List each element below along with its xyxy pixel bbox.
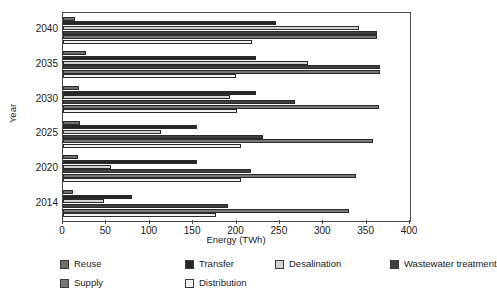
- x-tick-mark-0: [62, 220, 63, 224]
- bar-group-2040: [63, 13, 410, 48]
- bar-2035-supply: [63, 70, 380, 74]
- bar-2035-distribution: [63, 74, 236, 78]
- bar-2020-reuse: [63, 155, 78, 159]
- legend-item-reuse[interactable]: Reuse: [60, 256, 101, 272]
- bar-2025-supply: [63, 139, 373, 143]
- x-tick-mark-400: [409, 220, 410, 224]
- legend-item-distribution[interactable]: Distribution: [185, 275, 247, 291]
- bar-2040-wastewater-treatment: [63, 31, 377, 35]
- y-tick-2035: 2035: [22, 59, 58, 69]
- x-axis: 050100150200250300350400: [62, 220, 410, 230]
- x-axis-title: Energy (TWh): [62, 234, 410, 245]
- bar-2035-reuse: [63, 51, 86, 55]
- bar-2035-transfer: [63, 56, 256, 60]
- x-tick-mark-350: [366, 220, 367, 224]
- bar-2030-distribution: [63, 109, 237, 113]
- legend-item-desalination[interactable]: Desalination: [275, 256, 341, 272]
- bar-2035-desalination: [63, 61, 308, 65]
- legend-swatch-icon-wastewater-treatment: [390, 260, 399, 269]
- bar-group-2025: [63, 117, 410, 152]
- bar-2014-distribution: [63, 213, 216, 217]
- bar-2020-supply: [63, 174, 356, 178]
- x-tick-mark-150: [192, 220, 193, 224]
- bar-2025-distribution: [63, 144, 241, 148]
- legend-label: Supply: [74, 278, 103, 288]
- bar-group-2020: [63, 152, 410, 187]
- legend-label: Distribution: [199, 278, 247, 288]
- bar-2025-transfer: [63, 125, 197, 129]
- x-tick-mark-300: [322, 220, 323, 224]
- legend-item-transfer[interactable]: Transfer: [185, 256, 234, 272]
- x-tick-mark-50: [105, 220, 106, 224]
- legend-swatch-icon-supply: [60, 279, 69, 288]
- bar-2020-transfer: [63, 160, 197, 164]
- bar-2030-wastewater-treatment: [63, 100, 295, 104]
- y-axis-tick-labels: 204020352030202520202014: [20, 12, 58, 220]
- bar-2020-desalination: [63, 165, 111, 169]
- bar-2030-desalination: [63, 95, 230, 99]
- bar-2040-distribution: [63, 40, 252, 44]
- bar-group-2035: [63, 48, 410, 83]
- y-tick-2030: 2030: [22, 94, 58, 104]
- bar-2040-supply: [63, 35, 377, 39]
- bar-2030-reuse: [63, 86, 79, 90]
- bar-2014-transfer: [63, 195, 132, 199]
- x-tick-mark-250: [279, 220, 280, 224]
- legend-label: Transfer: [199, 259, 234, 269]
- bar-2025-desalination: [63, 130, 161, 134]
- x-tick-mark-200: [236, 220, 237, 224]
- plot-area: [62, 12, 411, 222]
- bar-2014-wastewater-treatment: [63, 204, 228, 208]
- legend-label: Wastewater treatment: [404, 259, 497, 269]
- bar-2014-supply: [63, 209, 349, 213]
- legend-label: Desalination: [289, 259, 341, 269]
- legend-swatch-icon-distribution: [185, 279, 194, 288]
- legend-item-wastewater-treatment[interactable]: Wastewater treatment: [390, 256, 497, 272]
- bar-2014-reuse: [63, 190, 73, 194]
- bar-2020-distribution: [63, 178, 241, 182]
- x-tick-mark-100: [149, 220, 150, 224]
- bar-2020-wastewater-treatment: [63, 169, 251, 173]
- bar-group-2030: [63, 82, 410, 117]
- y-tick-2040: 2040: [22, 24, 58, 34]
- chart-legend: ReuseTransferDesalinationWastewater trea…: [60, 256, 460, 300]
- legend-swatch-icon-transfer: [185, 260, 194, 269]
- bar-2030-supply: [63, 105, 379, 109]
- y-tick-2020: 2020: [22, 163, 58, 173]
- bar-group-2014: [63, 186, 410, 221]
- bar-2035-wastewater-treatment: [63, 65, 380, 69]
- legend-row-2: SupplyDistribution: [60, 275, 460, 293]
- y-tick-2025: 2025: [22, 128, 58, 138]
- bar-2025-reuse: [63, 121, 80, 125]
- bar-2040-reuse: [63, 17, 75, 21]
- y-axis-title: Year: [7, 84, 18, 144]
- bar-2030-transfer: [63, 91, 256, 95]
- bar-2040-desalination: [63, 26, 359, 30]
- legend-swatch-icon-desalination: [275, 260, 284, 269]
- legend-swatch-icon-reuse: [60, 260, 69, 269]
- legend-label: Reuse: [74, 259, 101, 269]
- legend-row-1: ReuseTransferDesalinationWastewater trea…: [60, 256, 460, 274]
- bar-2040-transfer: [63, 21, 276, 25]
- legend-item-supply[interactable]: Supply: [60, 275, 103, 291]
- bar-2025-wastewater-treatment: [63, 135, 263, 139]
- bar-2014-desalination: [63, 199, 104, 203]
- y-tick-2014: 2014: [22, 198, 58, 208]
